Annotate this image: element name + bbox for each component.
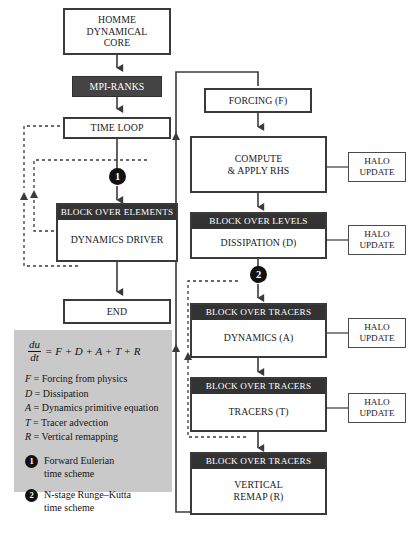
node-halo-update-4[interactable]: HALO UPDATE — [348, 393, 406, 423]
compute-rhs-line-2: & APPLY RHS — [228, 165, 290, 177]
legend-equation-fraction: du dt — [27, 339, 42, 363]
legend-panel: du dt = F + D + A + T + R F = Forcing fr… — [14, 330, 172, 492]
node-halo-update-1[interactable]: HALO UPDATE — [348, 152, 406, 182]
block-over-tracers-r-header: BLOCK OVER TRACERS — [192, 454, 325, 469]
legend-scheme-line-2: time scheme — [44, 468, 94, 479]
node-block-over-tracers-dynamics[interactable]: BLOCK OVER TRACERS DYNAMICS (A) — [190, 303, 327, 358]
dynamics-driver-label: DYNAMICS DRIVER — [58, 220, 176, 260]
node-mpi-ranks[interactable]: MPI-RANKS — [72, 76, 162, 97]
flowchart-canvas: HOMME DYNAMICAL CORE MPI-RANKS TIME LOOP… — [0, 0, 419, 538]
step-marker-2-label: 2 — [256, 269, 261, 280]
homme-line-3: CORE — [104, 37, 131, 49]
block-over-tracers-t-header: BLOCK OVER TRACERS — [192, 379, 325, 394]
legend-definition-symbol: R — [25, 431, 31, 442]
node-block-over-tracers-vertical-remap[interactable]: BLOCK OVER TRACERS VERTICAL REMAP (R) — [190, 452, 327, 515]
node-block-over-elements[interactable]: BLOCK OVER ELEMENTS DYNAMICS DRIVER — [56, 203, 178, 262]
legend-schemes: 1 Forward Eulerian time scheme 2 N-stage… — [25, 454, 162, 515]
compute-rhs-line-1: COMPUTE — [235, 153, 283, 165]
legend-definition-symbol: A — [25, 402, 31, 413]
legend-definition-text: = Vertical remapping — [34, 431, 118, 442]
node-compute-apply-rhs[interactable]: COMPUTE & APPLY RHS — [190, 136, 327, 193]
legend-definition-row: R = Vertical remapping — [25, 430, 162, 445]
halo-update-4-line-1: HALO — [364, 397, 390, 408]
legend-definition-symbol: T — [25, 417, 31, 428]
node-end[interactable]: END — [63, 299, 171, 324]
vertical-remap-line-2: REMAP (R) — [234, 491, 284, 503]
legend-definition-row: F = Forcing from physics — [25, 372, 162, 387]
legend-scheme-marker-icon: 2 — [25, 489, 38, 502]
halo-update-1-line-2: UPDATE — [359, 167, 394, 178]
time-loop-label: TIME LOOP — [65, 119, 169, 137]
step-marker-1: 1 — [109, 168, 126, 185]
block-over-levels-header: BLOCK OVER LEVELS — [192, 214, 325, 229]
legend-definition-text: = Dynamics primitive equation — [34, 402, 159, 413]
node-halo-update-2[interactable]: HALO UPDATE — [348, 225, 406, 255]
block-over-elements-header: BLOCK OVER ELEMENTS — [58, 205, 176, 220]
node-block-over-levels[interactable]: BLOCK OVER LEVELS DISSIPATION (D) — [190, 212, 327, 259]
legend-definition-symbol: F — [25, 373, 31, 384]
vertical-remap-line-1: VERTICAL — [234, 479, 283, 491]
halo-update-3-line-1: HALO — [364, 322, 390, 333]
legend-equation: du dt = F + D + A + T + R — [27, 339, 162, 363]
legend-scheme-row: 2 N-stage Runge–Kutta time scheme — [25, 488, 162, 515]
legend-scheme-line-1: N-stage Runge–Kutta — [44, 489, 131, 500]
tracers-t-label: TRACERS (T) — [192, 394, 325, 430]
dynamics-a-label: DYNAMICS (A) — [192, 320, 325, 356]
halo-update-4-line-2: UPDATE — [359, 408, 394, 419]
legend-definitions: F = Forcing from physics D = Dissipation… — [25, 372, 162, 445]
step-marker-2: 2 — [250, 266, 267, 283]
legend-scheme-text: N-stage Runge–Kutta time scheme — [44, 488, 131, 515]
legend-equation-rhs: = F + D + A + T + R — [45, 345, 141, 357]
legend-scheme-line-2: time scheme — [44, 502, 94, 513]
node-block-over-tracers-tracers[interactable]: BLOCK OVER TRACERS TRACERS (T) — [190, 377, 327, 432]
halo-update-2-line-1: HALO — [364, 229, 390, 240]
node-homme-dynamical-core[interactable]: HOMME DYNAMICAL CORE — [63, 8, 171, 55]
halo-update-3-line-2: UPDATE — [359, 333, 394, 344]
node-forcing[interactable]: FORCING (F) — [204, 88, 312, 113]
mpi-ranks-label: MPI-RANKS — [73, 77, 161, 96]
homme-line-2: DYNAMICAL — [87, 26, 148, 38]
node-time-loop[interactable]: TIME LOOP — [63, 117, 171, 139]
legend-equation-numerator: du — [27, 339, 42, 351]
legend-scheme-line-1: Forward Eulerian — [44, 455, 114, 466]
legend-scheme-text: Forward Eulerian time scheme — [44, 454, 114, 481]
block-over-tracers-a-header: BLOCK OVER TRACERS — [192, 305, 325, 320]
legend-definition-row: A = Dynamics primitive equation — [25, 401, 162, 416]
forcing-label: FORCING (F) — [206, 90, 310, 111]
legend-scheme-marker-icon: 1 — [25, 455, 38, 468]
halo-update-2-line-2: UPDATE — [359, 240, 394, 251]
legend-scheme-row: 1 Forward Eulerian time scheme — [25, 454, 162, 481]
homme-line-1: HOMME — [98, 14, 136, 26]
legend-definition-text: = Tracer advection — [33, 417, 108, 428]
legend-definition-row: D = Dissipation — [25, 387, 162, 402]
end-label: END — [65, 301, 169, 322]
legend-definition-text: = Dissipation — [35, 388, 89, 399]
legend-definition-text: = Forcing from physics — [34, 373, 128, 384]
legend-definition-row: T = Tracer advection — [25, 416, 162, 431]
step-marker-1-label: 1 — [115, 171, 120, 182]
legend-equation-denominator: dt — [28, 351, 41, 364]
legend-definition-symbol: D — [25, 388, 32, 399]
halo-update-1-line-1: HALO — [364, 156, 390, 167]
node-halo-update-3[interactable]: HALO UPDATE — [348, 318, 406, 348]
dissipation-label: DISSIPATION (D) — [192, 229, 325, 257]
